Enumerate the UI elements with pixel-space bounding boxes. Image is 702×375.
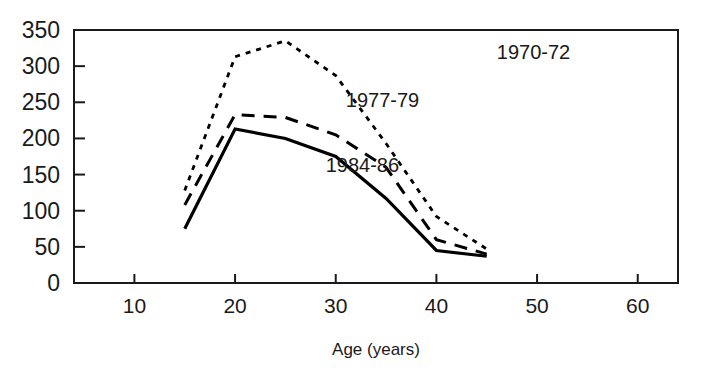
y-tick-label-350: 350 bbox=[22, 17, 60, 43]
series-annotation-1977-79: 1977-79 bbox=[346, 89, 419, 111]
y-tick-label-200: 200 bbox=[22, 125, 60, 151]
y-tick-label-100: 100 bbox=[22, 198, 60, 224]
x-tick-label-30: 30 bbox=[324, 294, 347, 317]
x-tick-label-60: 60 bbox=[626, 294, 649, 317]
line-chart: 050100150200250300350 102030405060 1970-… bbox=[0, 0, 702, 375]
series-annotation-1970-72: 1970-72 bbox=[497, 41, 570, 63]
y-tick-label-250: 250 bbox=[22, 89, 60, 115]
y-tick-label-300: 300 bbox=[22, 53, 60, 79]
y-tick-label-150: 150 bbox=[22, 162, 60, 188]
chart-background bbox=[0, 0, 702, 375]
x-axis-title: Age (years) bbox=[332, 340, 420, 359]
chart-figure: 050100150200250300350 102030405060 1970-… bbox=[0, 0, 702, 375]
x-tick-label-40: 40 bbox=[425, 294, 448, 317]
x-tick-label-50: 50 bbox=[525, 294, 548, 317]
series-annotation-1984-86: 1984-86 bbox=[326, 154, 399, 176]
y-tick-label-50: 50 bbox=[34, 234, 60, 260]
y-tick-label-0: 0 bbox=[47, 270, 60, 296]
x-tick-label-10: 10 bbox=[123, 294, 146, 317]
x-tick-label-20: 20 bbox=[223, 294, 246, 317]
